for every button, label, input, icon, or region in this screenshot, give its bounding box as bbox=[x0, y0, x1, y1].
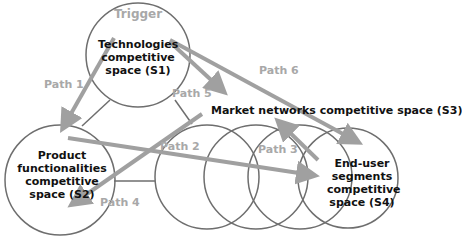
path-2-label: Path 2 bbox=[160, 140, 200, 153]
node-s2-label: Product functionalities competitive spac… bbox=[16, 149, 108, 201]
s2-line-2: functionalities bbox=[16, 162, 108, 175]
s4-line-2: segments bbox=[327, 170, 397, 183]
path-6-label: Path 6 bbox=[259, 64, 299, 77]
path-1-label: Path 1 bbox=[44, 78, 84, 91]
s2-line-4: space (S2) bbox=[16, 188, 108, 201]
s4-line-4: space (S4) bbox=[327, 196, 397, 209]
connector-s1-s2 bbox=[82, 100, 110, 126]
node-s3-label: Market networks competitive space (S3) bbox=[211, 104, 462, 117]
trigger-label: Trigger bbox=[114, 7, 162, 21]
node-s4-label: End-user segments competitive space (S4) bbox=[327, 157, 397, 209]
circle-s3-b bbox=[204, 125, 308, 229]
node-s1-label: Technologies competitive space (S1) bbox=[98, 38, 178, 77]
s2-line-1: Product bbox=[16, 149, 108, 162]
s4-line-1: End-user bbox=[327, 157, 397, 170]
path-3-label: Path 3 bbox=[258, 143, 298, 156]
path-4-label: Path 4 bbox=[100, 196, 140, 209]
s4-line-3: competitive bbox=[327, 183, 397, 196]
s1-line-1: Technologies bbox=[98, 38, 178, 51]
s2-line-3: competitive bbox=[16, 175, 108, 188]
s1-line-3: space (S1) bbox=[98, 64, 178, 77]
s1-line-2: competitive bbox=[98, 51, 178, 64]
path-5-label: Path 5 bbox=[172, 87, 212, 100]
